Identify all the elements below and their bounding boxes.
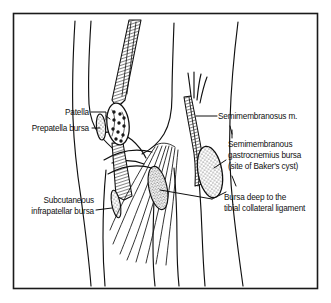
label-prepatella-bursa: Prepatella bursa bbox=[32, 124, 90, 133]
anatomy-illustration: Patella Prepatella bursa Subcutaneous in… bbox=[0, 0, 331, 303]
label-semimembranosus-muscle: Semimembranosus m. bbox=[218, 112, 297, 121]
label-subcutaneous-infrapatellar-bursa-line2: infrapatellar bursa bbox=[31, 207, 94, 216]
label-baker-cyst-line1: Semimembranous bbox=[228, 140, 292, 149]
label-subcutaneous-infrapatellar-bursa-line1: Subcutaneous bbox=[43, 196, 94, 205]
label-patella: Patella bbox=[65, 108, 90, 117]
knee-bursae-figure: Patella Prepatella bursa Subcutaneous in… bbox=[0, 0, 331, 303]
label-baker-cyst-line3: (site of Baker's cyst) bbox=[228, 162, 299, 171]
label-tibial-collateral-line2: tibial collateral ligament bbox=[224, 204, 306, 213]
label-tibial-collateral-line1: Bursa deep to the bbox=[224, 193, 287, 202]
label-baker-cyst-line2: gastrocnemius bursa bbox=[228, 151, 302, 160]
